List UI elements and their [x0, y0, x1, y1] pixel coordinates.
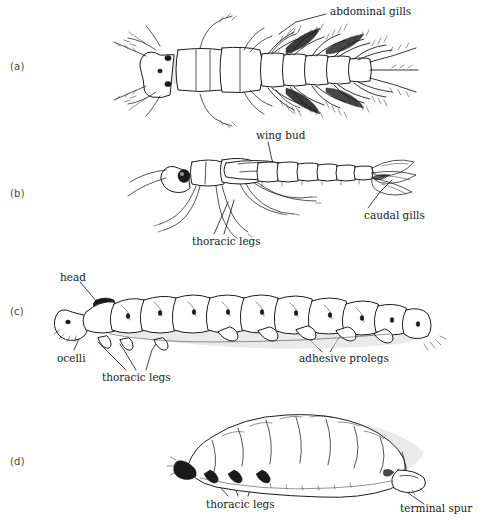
panel-letter-c: (c) [10, 306, 24, 317]
label-ocelli: ocelli [57, 353, 86, 364]
panel-b-artwork [128, 142, 416, 239]
label-wing-bud: wing bud [256, 130, 305, 141]
label-head: head [60, 272, 86, 283]
panel-letter-b: (b) [10, 188, 25, 199]
panel-letter-d: (d) [10, 456, 25, 467]
label-caudal-gills: caudal gills [364, 210, 425, 221]
label-abdominal-gills: abdominal gills [330, 6, 411, 17]
label-terminal-spur: terminal spur [400, 503, 472, 514]
label-adhesive-prolegs: adhesive prolegs [299, 353, 389, 364]
panel-letter-a: (a) [10, 61, 25, 72]
panel-a-artwork [114, 14, 418, 128]
label-thoracic-legs-c: thoracic legs [102, 372, 171, 383]
panel-d-artwork [167, 415, 425, 504]
label-thoracic-legs-b: thoracic legs [192, 236, 261, 247]
figure-container: (a) (b) (c) (d) abdominal gills wing bud… [0, 0, 483, 528]
illustration-artwork [0, 0, 483, 528]
label-thoracic-legs-d: thoracic legs [206, 499, 275, 510]
